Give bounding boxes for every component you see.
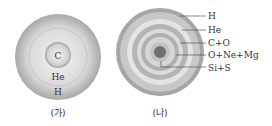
diagram-a: C He H (가) bbox=[15, 14, 101, 118]
label-si-s: Si+S bbox=[208, 63, 231, 73]
diagram-b: H He C+O O+Ne+Mg Si+S (나) bbox=[116, 8, 259, 118]
label-h: H bbox=[208, 11, 216, 21]
caption-a: (가) bbox=[50, 108, 65, 118]
label-o-ne-mg: O+Ne+Mg bbox=[208, 50, 259, 60]
label-he: He bbox=[51, 72, 64, 82]
label-c: C bbox=[55, 51, 62, 61]
label-he: He bbox=[208, 25, 221, 35]
caption-b: (나) bbox=[152, 108, 167, 118]
label-c-o: C+O bbox=[208, 38, 230, 48]
star-structure-diagrams: C He H (가) H He C+O O+Ne+Mg Si+S (나) bbox=[0, 0, 272, 126]
label-h: H bbox=[54, 87, 62, 97]
core-fe bbox=[154, 46, 166, 58]
